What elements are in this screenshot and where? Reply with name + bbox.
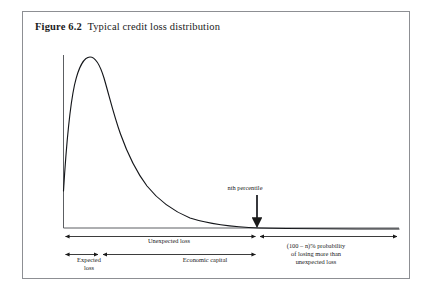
label-tail-probability-line3: unexpected loss bbox=[296, 258, 337, 265]
label-nth-percentile: nth percentile bbox=[205, 184, 285, 192]
label-expected-loss-line1: Expected bbox=[77, 256, 101, 263]
label-economic-capital: Economic capital bbox=[166, 256, 244, 264]
figure-frame: Figure 6.2 Typical credit loss distribut… bbox=[22, 11, 410, 279]
loss-distribution-plot bbox=[23, 12, 411, 280]
label-tail-probability-line2: of losing more than bbox=[291, 250, 341, 257]
label-expected-loss: Expected loss bbox=[66, 256, 112, 272]
label-tail-probability-line1: (100 – n)% probability bbox=[287, 242, 345, 249]
loss-distribution-curve bbox=[64, 57, 400, 229]
label-tail-probability: (100 – n)% probability of losing more th… bbox=[261, 242, 371, 267]
label-unexpected-loss: Unexpected loss bbox=[129, 237, 209, 245]
label-expected-loss-line2: loss bbox=[84, 264, 94, 271]
